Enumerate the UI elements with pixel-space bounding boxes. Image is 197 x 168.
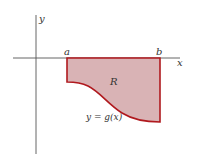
y-axis-label: y	[38, 13, 45, 24]
x-axis-label: x	[177, 57, 183, 68]
curve-label: y = g(x)	[85, 112, 123, 122]
region-label: R	[109, 76, 118, 87]
bound-b-label: b	[156, 46, 162, 57]
diagram-canvas: y x a b R y = g(x)	[0, 0, 197, 168]
bound-a-label: a	[64, 46, 70, 57]
